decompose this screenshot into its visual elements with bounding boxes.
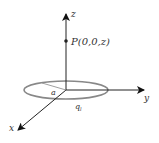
point-p (64, 39, 68, 43)
x-axis-label: x (9, 123, 14, 133)
charge-subscript: l (80, 106, 82, 112)
x-axis (18, 90, 66, 130)
z-axis-label: z (70, 9, 76, 19)
radius-label: a (51, 88, 56, 97)
ring-charge-diagram: z y x P(0,0,z) a q l (0, 0, 159, 143)
y-axis-label: y (143, 93, 150, 103)
point-label: P(0,0,z) (70, 36, 110, 47)
